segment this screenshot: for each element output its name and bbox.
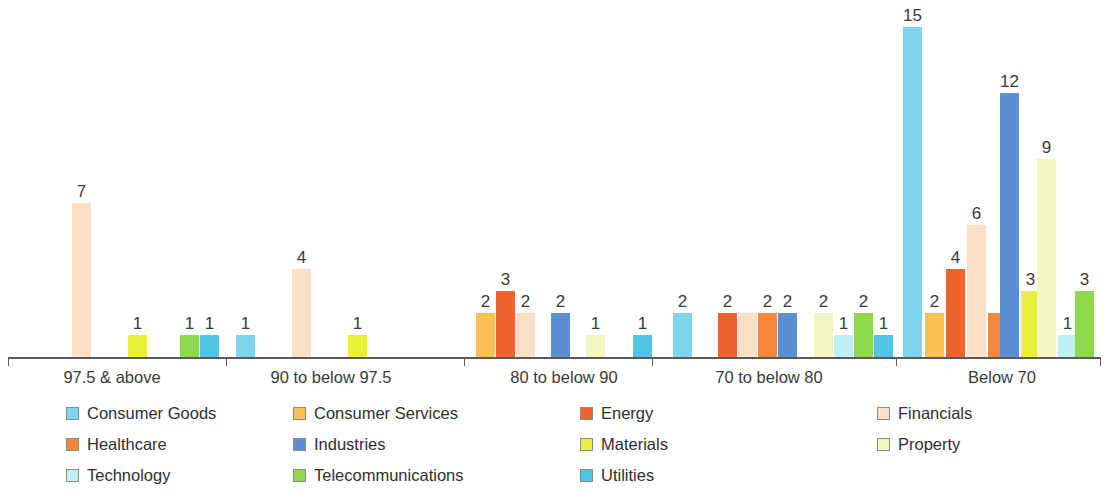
- bar-industries[interactable]: 12: [1000, 93, 1019, 357]
- bar-rect: [633, 335, 652, 357]
- bar-financials[interactable]: 7: [72, 203, 91, 357]
- bar-rect: [967, 225, 986, 357]
- bar-value-label: 1: [185, 315, 194, 332]
- bar-financials[interactable]: [738, 313, 757, 357]
- bar-healthcare[interactable]: 2: [758, 313, 777, 357]
- legend-item-energy[interactable]: Energy: [580, 404, 653, 422]
- bar-value-label: 1: [638, 315, 647, 332]
- legend-swatch-icon: [66, 407, 79, 420]
- legend-item-technology[interactable]: Technology: [66, 466, 170, 484]
- legend-item-utilities[interactable]: Utilities: [580, 466, 654, 484]
- bar-consumer-goods[interactable]: 1: [236, 335, 255, 357]
- bar-rect: [874, 335, 893, 357]
- legend-label: Consumer Goods: [87, 404, 216, 422]
- bar-value-label: 2: [556, 293, 565, 310]
- chart-legend: Consumer GoodsConsumer ServicesEnergyFin…: [66, 404, 1076, 490]
- bar-value-label: 6: [972, 205, 981, 222]
- bar-rect: [551, 313, 570, 357]
- legend-label: Utilities: [601, 466, 654, 484]
- bar-rect: [718, 313, 737, 357]
- legend-swatch-icon: [66, 438, 79, 451]
- bar-consumer-services[interactable]: 2: [476, 313, 495, 357]
- legend-swatch-icon: [66, 469, 79, 482]
- bar-value-label: 1: [591, 315, 600, 332]
- bar-value-label: 2: [481, 293, 490, 310]
- legend-item-financials[interactable]: Financials: [877, 404, 972, 422]
- bar-technology[interactable]: 1: [834, 335, 853, 357]
- bar-rect: [292, 269, 311, 357]
- legend-label: Property: [898, 435, 960, 453]
- bar-rect: [758, 313, 777, 357]
- bar-consumer-goods[interactable]: 2: [673, 313, 692, 357]
- bar-value-label: 3: [1080, 271, 1089, 288]
- bar-rect: [516, 313, 535, 357]
- plot-area: 71111412322112222212115246123913: [0, 0, 1108, 362]
- bar-materials[interactable]: 1: [128, 335, 147, 357]
- bar-industries[interactable]: 2: [551, 313, 570, 357]
- bar-value-label: 12: [1000, 73, 1019, 90]
- bar-rect: [180, 335, 199, 357]
- legend-item-industries[interactable]: Industries: [293, 435, 386, 453]
- legend-label: Consumer Services: [314, 404, 458, 422]
- bar-value-label: 2: [521, 293, 530, 310]
- bar-value-label: 15: [903, 7, 922, 24]
- bar-energy[interactable]: 4: [946, 269, 965, 357]
- bar-rect: [200, 335, 219, 357]
- bar-value-label: 1: [839, 315, 848, 332]
- legend-label: Telecommunications: [314, 466, 463, 484]
- legend-label: Materials: [601, 435, 668, 453]
- bar-value-label: 3: [501, 271, 510, 288]
- legend-label: Energy: [601, 404, 653, 422]
- bar-rect: [348, 335, 367, 357]
- bar-property[interactable]: 2: [814, 313, 833, 357]
- bar-rect: [586, 335, 605, 357]
- bar-rect: [738, 313, 757, 357]
- x-axis-tick: [896, 357, 897, 366]
- bar-materials[interactable]: 1: [348, 335, 367, 357]
- bar-energy[interactable]: 2: [718, 313, 737, 357]
- bar-rect: [925, 313, 944, 357]
- legend-item-consumer-goods[interactable]: Consumer Goods: [66, 404, 216, 422]
- bar-financials[interactable]: 6: [967, 225, 986, 357]
- bar-value-label: 1: [133, 315, 142, 332]
- bar-value-label: 1: [353, 315, 362, 332]
- bar-rect: [673, 313, 692, 357]
- bar-rect: [236, 335, 255, 357]
- bar-utilities[interactable]: 1: [633, 335, 652, 357]
- bar-rect: [128, 335, 147, 357]
- bar-telecommunications[interactable]: 2: [854, 313, 873, 357]
- legend-item-materials[interactable]: Materials: [580, 435, 668, 453]
- legend-swatch-icon: [580, 469, 593, 482]
- bar-value-label: 4: [951, 249, 960, 266]
- bar-financials[interactable]: 2: [516, 313, 535, 357]
- bar-value-label: 2: [783, 293, 792, 310]
- bar-property[interactable]: 1: [586, 335, 605, 357]
- bar-value-label: 2: [930, 293, 939, 310]
- bar-financials[interactable]: 4: [292, 269, 311, 357]
- legend-item-healthcare[interactable]: Healthcare: [66, 435, 167, 453]
- legend-item-telecommunications[interactable]: Telecommunications: [293, 466, 463, 484]
- bar-consumer-services[interactable]: 2: [925, 313, 944, 357]
- legend-label: Industries: [314, 435, 386, 453]
- bar-value-label: 1: [879, 315, 888, 332]
- bar-telecommunications[interactable]: 1: [180, 335, 199, 357]
- bar-rect: [946, 269, 965, 357]
- bar-consumer-goods[interactable]: 15: [903, 27, 922, 357]
- x-axis-label-4: 70 to below 80: [715, 368, 822, 387]
- bar-value-label: 9: [1042, 139, 1051, 156]
- legend-swatch-icon: [293, 438, 306, 451]
- bar-industries[interactable]: 2: [778, 313, 797, 357]
- bar-property[interactable]: 9: [1037, 159, 1056, 357]
- bar-utilities[interactable]: 1: [200, 335, 219, 357]
- legend-swatch-icon: [877, 407, 890, 420]
- bar-rect: [834, 335, 853, 357]
- bar-telecommunications[interactable]: 3: [1075, 291, 1094, 357]
- x-axis-label-3: 80 to below 90: [510, 368, 617, 387]
- legend-item-property[interactable]: Property: [877, 435, 960, 453]
- x-axis-label-1: 97.5 & above: [63, 368, 160, 387]
- bar-utilities[interactable]: 1: [874, 335, 893, 357]
- bar-energy[interactable]: 3: [496, 291, 515, 357]
- bar-value-label: 7: [77, 183, 86, 200]
- bar-value-label: 2: [859, 293, 868, 310]
- legend-item-consumer-services[interactable]: Consumer Services: [293, 404, 458, 422]
